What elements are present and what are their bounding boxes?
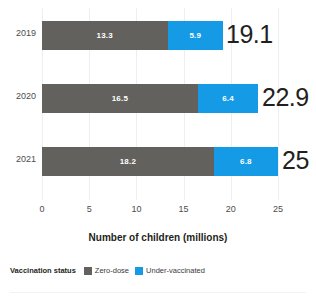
legend-item-label: Under-vaccinated	[146, 266, 205, 275]
bar-segment-value: 13.3	[97, 32, 113, 40]
stacked-bar-chart: 13.3 5.9 16.5 6.4 18.2 6.8 2019 202	[0, 0, 316, 300]
bar-total-label: 25	[282, 148, 309, 173]
bar-total-label: 22.9	[262, 85, 309, 110]
x-axis-tick: 25	[273, 205, 283, 214]
x-axis-tick: 5	[87, 205, 92, 214]
bar-segment-under-vaccinated[interactable]: 6.8	[214, 147, 278, 176]
bar-total-label: 19.1	[226, 22, 273, 47]
footer-divider	[10, 292, 306, 293]
category-label-2019: 2019	[0, 29, 36, 38]
bar-segment-value: 5.9	[189, 32, 201, 40]
category-label-2020: 2020	[0, 92, 36, 101]
bar-segment-value: 18.2	[120, 158, 136, 166]
bar-row[interactable]: 13.3 5.9	[42, 21, 223, 50]
x-axis-title: Number of children (millions)	[0, 232, 316, 243]
legend-swatch-icon	[84, 267, 92, 275]
bar-segment-zero-dose[interactable]: 13.3	[42, 21, 168, 50]
legend-title: Vaccination status	[10, 266, 76, 275]
bar-segment-value: 6.4	[222, 95, 234, 103]
x-axis-tick: 0	[39, 205, 44, 214]
legend-item-zero-dose[interactable]: Zero-dose	[84, 266, 129, 275]
x-axis-tick: 10	[131, 205, 141, 214]
legend-item-label: Zero-dose	[95, 266, 129, 275]
category-label-2021: 2021	[0, 155, 36, 164]
bar-segment-under-vaccinated[interactable]: 6.4	[198, 84, 258, 113]
x-axis-tick: 20	[226, 205, 236, 214]
legend-item-under-vaccinated[interactable]: Under-vaccinated	[135, 266, 205, 275]
bar-segment-value: 6.8	[240, 158, 252, 166]
chart-legend: Vaccination status Zero-dose Under-vacci…	[10, 266, 205, 275]
bar-segment-under-vaccinated[interactable]: 5.9	[168, 21, 224, 50]
legend-swatch-icon	[135, 267, 143, 275]
bar-segment-zero-dose[interactable]: 18.2	[42, 147, 214, 176]
bar-row[interactable]: 18.2 6.8	[42, 147, 278, 176]
bar-row[interactable]: 16.5 6.4	[42, 84, 258, 113]
bar-segment-zero-dose[interactable]: 16.5	[42, 84, 198, 113]
bar-segment-value: 16.5	[112, 95, 128, 103]
x-axis-tick: 15	[179, 205, 189, 214]
